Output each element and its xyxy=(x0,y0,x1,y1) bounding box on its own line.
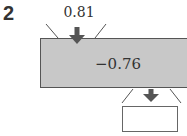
output-answer-box[interactable] xyxy=(122,106,178,132)
output-funnel-right-line xyxy=(170,89,181,103)
output-funnel-left-line xyxy=(122,89,133,103)
down-arrow-icon xyxy=(143,89,159,102)
down-arrow-icon xyxy=(69,27,85,44)
